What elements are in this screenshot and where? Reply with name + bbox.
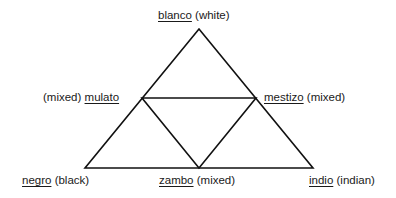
- label-mulato: (mixed) mulato: [43, 91, 119, 104]
- label-negro: negro (black): [22, 174, 89, 187]
- racial-classification-triangle-diagram: blanco (white) (mixed) mulato mestizo (m…: [0, 0, 396, 198]
- gloss-mixed-mulato: (mixed): [43, 91, 81, 103]
- term-indio: indio: [309, 174, 333, 186]
- gloss-mixed-mestizo: (mixed): [307, 91, 345, 103]
- term-mulato: mulato: [85, 91, 120, 103]
- label-mestizo: mestizo (mixed): [264, 91, 345, 104]
- inner-triangle: [142, 98, 256, 168]
- gloss-white: (white): [195, 9, 230, 21]
- term-zambo: zambo: [159, 174, 194, 186]
- gloss-mixed-zambo: (mixed): [197, 174, 235, 186]
- term-negro: negro: [22, 174, 51, 186]
- label-indio: indio (indian): [309, 174, 375, 187]
- label-zambo: zambo (mixed): [159, 174, 235, 187]
- term-mestizo: mestizo: [264, 91, 304, 103]
- label-blanco: blanco (white): [158, 9, 230, 22]
- gloss-indian: (indian): [337, 174, 375, 186]
- term-blanco: blanco: [158, 9, 192, 21]
- gloss-black: (black): [55, 174, 90, 186]
